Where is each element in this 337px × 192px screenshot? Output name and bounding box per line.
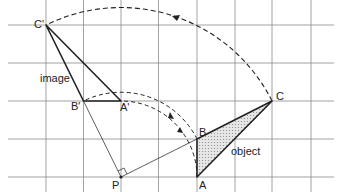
label-object: object xyxy=(231,146,260,157)
arrow-head-inner xyxy=(177,127,183,133)
line-p-b xyxy=(121,139,197,177)
grid xyxy=(8,0,334,192)
label-c: C xyxy=(276,91,284,102)
rotation-diagram: C' image B' A' P B A C object xyxy=(0,0,337,192)
arrow-head-middle xyxy=(168,112,174,119)
label-p: P xyxy=(112,180,119,191)
label-a: A xyxy=(199,180,206,191)
arc-c-to-c-prime xyxy=(46,8,272,101)
diagram-canvas xyxy=(0,0,337,192)
label-c-prime: C' xyxy=(34,19,44,30)
arrow-head-outer xyxy=(172,15,180,21)
point-p xyxy=(119,175,122,178)
label-a-prime: A' xyxy=(120,102,129,113)
label-image: image xyxy=(40,73,70,84)
label-b-prime: B' xyxy=(71,101,80,112)
label-b: B xyxy=(199,127,206,138)
